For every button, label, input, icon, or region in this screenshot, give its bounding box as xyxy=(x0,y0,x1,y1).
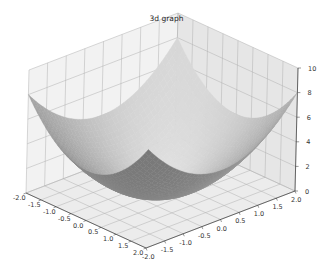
z-tick-label: 0 xyxy=(305,188,309,196)
z-tick-label: 10 xyxy=(308,65,316,73)
x-tick-label: 0.0 xyxy=(73,222,83,230)
y-tick-label: 2.0 xyxy=(291,196,301,204)
z-tick-label: 2 xyxy=(306,163,310,171)
y-tick-label: -1.0 xyxy=(179,239,192,247)
z-tick-label: 8 xyxy=(307,89,311,97)
x-tick-label: -0.5 xyxy=(58,215,71,223)
y-tick-label: 0.0 xyxy=(217,225,227,233)
y-tick-label: 0.5 xyxy=(235,217,245,225)
x-tick-label: -1.5 xyxy=(28,201,41,209)
y-tick-label: -1.5 xyxy=(161,246,174,254)
x-tick-label: 0.5 xyxy=(88,228,98,236)
y-tick-label: 1.0 xyxy=(254,210,264,218)
y-tick-label: -0.5 xyxy=(198,232,211,240)
x-tick-label: -2.0 xyxy=(13,194,26,202)
y-tick-label: 1.5 xyxy=(272,203,282,211)
3d-surface-plot: -2.0-1.5-1.0-0.50.00.51.01.52.0 -2.0-1.5… xyxy=(0,0,333,270)
x-tick-label: 1.5 xyxy=(118,242,128,250)
z-tick-label: 4 xyxy=(306,138,310,146)
x-tick-label: 1.0 xyxy=(103,235,113,243)
z-axis-ticks: 0246810 xyxy=(295,65,316,196)
x-tick-label: -1.0 xyxy=(43,208,56,216)
chart-title: 3d graph xyxy=(0,14,333,23)
y-tick-label: -2.0 xyxy=(142,253,155,261)
figure: 3d graph -2.0-1.5-1.0-0.50.00.51.01.52.0… xyxy=(0,0,333,270)
z-tick-label: 6 xyxy=(307,114,311,122)
